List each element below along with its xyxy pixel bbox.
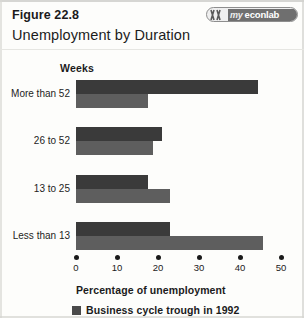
myeconlab-logo: my econlab bbox=[206, 7, 298, 22]
bar-group: 13 to 25 bbox=[76, 175, 281, 203]
x-tick-dot bbox=[197, 255, 202, 260]
bar-group: 26 to 52 bbox=[76, 127, 281, 155]
x-tick: 10 bbox=[105, 255, 129, 273]
logo-text-my: my bbox=[228, 9, 245, 21]
x-tick-label: 20 bbox=[146, 263, 170, 273]
x-tick-label: 50 bbox=[269, 263, 293, 273]
x-tick-dot bbox=[156, 255, 161, 260]
legend-label: Business cycle trough in 1992 bbox=[86, 304, 239, 316]
category-label: More than 52 bbox=[11, 88, 70, 100]
bar-series-2 bbox=[76, 236, 263, 250]
category-label: Less than 13 bbox=[13, 230, 70, 242]
x-tick: 20 bbox=[146, 255, 170, 273]
legend-swatch bbox=[72, 306, 81, 315]
x-tick: 0 bbox=[64, 255, 88, 273]
category-label: 13 to 25 bbox=[34, 183, 70, 195]
x-tick-label: 10 bbox=[105, 263, 129, 273]
bar-series-2 bbox=[76, 141, 153, 155]
x-axis: 01020304050 bbox=[76, 255, 281, 285]
bar-series-1 bbox=[76, 127, 162, 141]
x-tick-dot bbox=[115, 255, 120, 260]
x-axis-title: Percentage of unemployment bbox=[76, 284, 226, 296]
category-label: 26 to 52 bbox=[34, 135, 70, 147]
figure-number: Figure 22.8 bbox=[12, 8, 79, 22]
bar-chart: Weeks More than 5226 to 5213 to 25Less t… bbox=[0, 52, 304, 318]
x-tick: 40 bbox=[228, 255, 252, 273]
x-tick-label: 40 bbox=[228, 263, 252, 273]
chart-legend: Business cycle trough in 1992 bbox=[72, 304, 239, 316]
bar-series-1 bbox=[76, 222, 170, 236]
bar-group: Less than 13 bbox=[76, 222, 281, 250]
header-divider bbox=[0, 49, 304, 50]
bar-series-1 bbox=[76, 175, 148, 189]
x-tick-dot bbox=[279, 255, 284, 260]
bar-series-2 bbox=[76, 189, 170, 203]
bar-group: More than 52 bbox=[76, 80, 281, 108]
x-tick: 50 bbox=[269, 255, 293, 273]
bar-series-2 bbox=[76, 94, 148, 108]
x-tick-label: 0 bbox=[64, 263, 88, 273]
x-tick-dot bbox=[238, 255, 243, 260]
category-axis-title: Weeks bbox=[60, 62, 94, 74]
plot-area: More than 5226 to 5213 to 25Less than 13 bbox=[76, 80, 281, 250]
x-tick-dot bbox=[74, 255, 79, 260]
x-tick-label: 30 bbox=[187, 263, 211, 273]
logo-text-econlab: econlab bbox=[245, 9, 297, 21]
x-tick: 30 bbox=[187, 255, 211, 273]
page-title: Unemployment by Duration bbox=[12, 27, 190, 43]
figure-page: Figure 22.8 my econlab Unemployment by D… bbox=[0, 0, 304, 318]
bar-series-1 bbox=[76, 80, 258, 94]
myeconlab-mark-icon bbox=[208, 8, 228, 21]
